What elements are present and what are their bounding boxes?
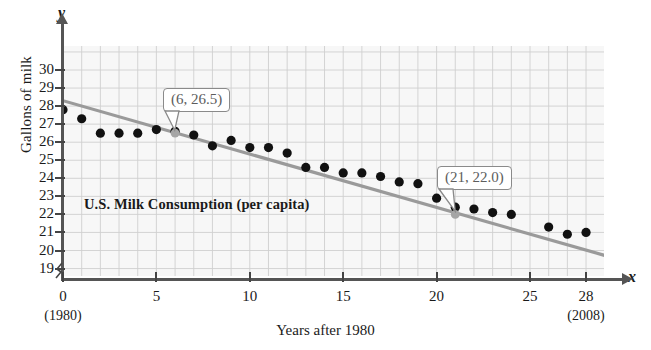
- y-axis-tick: [55, 141, 65, 143]
- y-axis-tick-label: 23: [14, 188, 54, 203]
- y-axis-tick: [55, 177, 65, 179]
- data-point: [507, 210, 516, 219]
- data-point: [395, 177, 404, 186]
- y-axis-tick-label: 19: [14, 261, 54, 276]
- highlighted-point: [451, 210, 460, 219]
- data-point: [96, 129, 105, 138]
- x-axis-label: Years after 1980: [0, 322, 651, 339]
- x-axis-tick-label: 25: [505, 288, 555, 305]
- y-axis-tick-label: 30: [14, 62, 54, 77]
- annotation-callout-2: (21, 22.0): [437, 166, 512, 190]
- data-point: [488, 208, 497, 217]
- data-point: [283, 148, 292, 157]
- data-point: [77, 114, 86, 123]
- data-point: [264, 143, 273, 152]
- annotation-callout-1: (6, 26.5): [163, 88, 230, 112]
- y-axis-tick: [55, 231, 65, 233]
- data-point: [376, 172, 385, 181]
- data-point: [357, 168, 366, 177]
- y-axis-tick-label: 26: [14, 134, 54, 149]
- y-axis-tick: [55, 69, 65, 71]
- data-point: [320, 163, 329, 172]
- data-point: [189, 130, 198, 139]
- y-axis-arrow: [56, 13, 68, 24]
- x-axis-tick-label: 28: [561, 288, 611, 305]
- x-axis-arrow: [622, 273, 633, 285]
- chart-figure: Gallons of milk y x 30292827262524232221…: [0, 0, 651, 350]
- y-axis-tick: [55, 159, 65, 161]
- x-axis-tick: [155, 272, 157, 282]
- x-axis-tick: [342, 272, 344, 282]
- y-axis-tick-label: 22: [14, 206, 54, 221]
- x-axis-tick: [62, 272, 64, 282]
- data-point: [432, 194, 441, 203]
- highlighted-point: [171, 129, 180, 138]
- y-axis-tick: [55, 105, 65, 107]
- y-axis-line: [61, 22, 64, 280]
- x-axis-tick-label: 15: [318, 288, 368, 305]
- data-point: [413, 179, 422, 188]
- data-point: [469, 204, 478, 213]
- data-point: [581, 228, 590, 237]
- y-axis-tick-label: 27: [14, 116, 54, 131]
- data-point: [152, 125, 161, 134]
- y-axis-tick: [55, 87, 65, 89]
- y-axis-tick-label: 24: [14, 170, 54, 185]
- y-axis-tick-label: 25: [14, 152, 54, 167]
- x-axis-tick: [529, 272, 531, 282]
- y-axis-tick-label: 29: [14, 80, 54, 95]
- data-point: [114, 129, 123, 138]
- plot-area: [63, 46, 604, 276]
- y-axis-tick: [55, 123, 65, 125]
- x-axis-tick-label: 10: [225, 288, 275, 305]
- data-point: [563, 230, 572, 239]
- data-point: [339, 168, 348, 177]
- x-axis-tick: [585, 272, 587, 282]
- x-axis-tick: [436, 272, 438, 282]
- data-point: [544, 222, 553, 231]
- data-point: [301, 163, 310, 172]
- x-axis-tick-label: 20: [412, 288, 462, 305]
- y-axis-tick-label: 21: [14, 224, 54, 239]
- y-axis-tick-label: 28: [14, 98, 54, 113]
- data-point: [208, 141, 217, 150]
- y-axis-tick: [55, 195, 65, 197]
- plot-canvas: [63, 46, 604, 276]
- y-axis-tick: [55, 250, 65, 252]
- y-axis-tick-label: 20: [14, 243, 54, 258]
- y-axis-tick: [55, 268, 65, 270]
- x-axis-tick-label: 0: [38, 288, 88, 305]
- chart-title: U.S. Milk Consumption (per capita): [84, 196, 310, 213]
- data-point: [245, 143, 254, 152]
- data-point: [227, 136, 236, 145]
- x-axis-tick: [249, 272, 251, 282]
- data-point: [133, 129, 142, 138]
- x-axis-tick-label: 5: [131, 288, 181, 305]
- y-axis-tick: [55, 213, 65, 215]
